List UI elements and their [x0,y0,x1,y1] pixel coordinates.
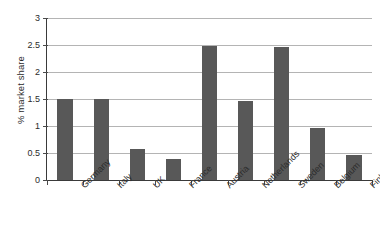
y-tick-label: 1.5 [27,95,40,104]
y-tick-label: 0 [35,176,40,185]
x-category-label: France [187,183,195,191]
bar [57,99,72,180]
y-axis-title: % market share [14,0,28,180]
x-category-label: Germany [79,183,87,191]
x-category-label: Sweden [296,183,304,191]
bar [202,46,217,180]
x-category-label: Austria [224,183,232,191]
y-tick-label: 3 [35,14,40,23]
y-tick-label: 2.5 [27,41,40,50]
x-axis-category-labels: GermanyItalyUKFranceAustriaNetherlandsSw… [47,183,372,249]
x-category-label: Belgium [332,183,340,191]
y-tick-label: 2 [35,68,40,77]
x-category-label: Italy [115,183,123,191]
x-category-label: Netherlands [260,183,268,191]
bars-layer [47,18,372,180]
x-category-label: Finland [368,183,376,191]
y-tick-label: 0.5 [27,149,40,158]
y-tick-label: 1 [35,122,40,131]
plot-area: 00.511.522.53 [47,18,372,180]
x-category-label: UK [151,183,159,191]
bar [166,159,181,180]
bar-chart-figure: % market share 00.511.522.53 GermanyItal… [0,0,380,250]
